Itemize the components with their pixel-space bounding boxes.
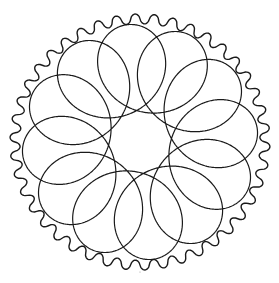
background (0, 0, 279, 283)
spirograph-drawing (0, 0, 279, 283)
speck-dot (139, 271, 140, 272)
